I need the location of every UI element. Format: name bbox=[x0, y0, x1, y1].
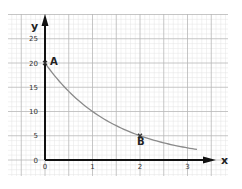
grid-major bbox=[8, 14, 228, 176]
y-axis-arrow-icon bbox=[42, 14, 49, 26]
grid-minor bbox=[8, 14, 228, 176]
y-axis-label: y bbox=[31, 20, 38, 33]
x-axis-arrow-icon bbox=[203, 157, 216, 164]
y-tick-label: 25 bbox=[29, 35, 38, 43]
y-tick-labels: 0510152025 bbox=[29, 35, 38, 164]
chart: 0123 0510152025 y x A B bbox=[0, 0, 242, 189]
x-tick-label: 1 bbox=[90, 163, 94, 171]
x-axis-label: x bbox=[221, 154, 228, 167]
x-tick-label: 0 bbox=[43, 163, 47, 171]
y-tick-label: 10 bbox=[29, 108, 38, 116]
y-tick-label: 20 bbox=[29, 60, 38, 68]
y-tick-label: 15 bbox=[29, 84, 38, 92]
x-tick-label: 3 bbox=[185, 163, 189, 171]
point-b-label: B bbox=[137, 136, 145, 147]
x-tick-label: 2 bbox=[138, 163, 142, 171]
y-tick-label: 0 bbox=[34, 157, 38, 165]
point-a-label: A bbox=[50, 56, 58, 67]
y-tick-label: 5 bbox=[34, 132, 38, 140]
